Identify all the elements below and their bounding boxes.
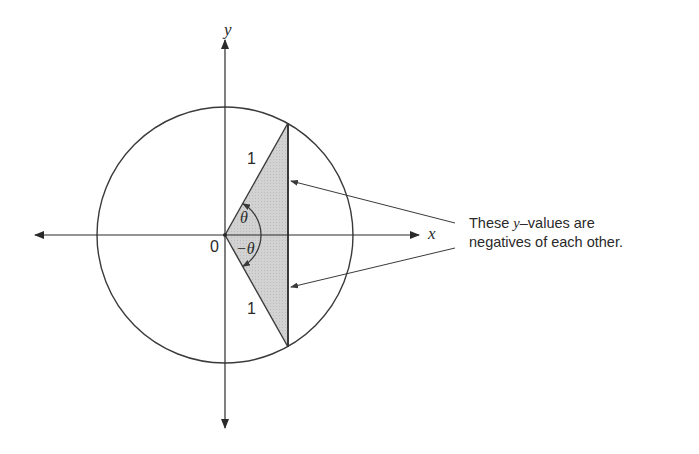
pointer-upper [291,181,455,223]
side-label-upper: 1 [247,150,256,168]
origin-point [223,233,227,237]
pointer-lower [291,248,455,287]
y-axis-label: y [224,20,232,40]
angle-label-theta: θ [240,209,248,227]
x-axis-label: x [428,224,436,244]
annotation-line-1: These y–values are [469,214,623,233]
angle-label-neg-theta: −θ [236,240,255,258]
annotation-line-2: negatives of each other. [469,233,623,252]
origin-label: 0 [210,238,219,256]
side-label-lower: 1 [247,300,256,318]
annotation-text: These y–values are negatives of each oth… [469,214,623,252]
